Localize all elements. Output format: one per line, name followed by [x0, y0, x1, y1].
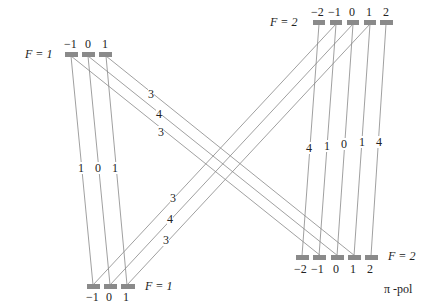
strength-label: 4	[167, 213, 173, 225]
br-sublevel: 1	[350, 263, 356, 275]
bottom-right-level-label: F = 2	[388, 250, 415, 262]
strength-label: 3	[148, 88, 154, 100]
tl-sublevel: 1	[102, 38, 108, 50]
strength-label: 1	[78, 162, 84, 174]
br-sublevel: −2	[294, 263, 307, 275]
top-right-level-label: F = 2	[270, 16, 297, 28]
strength-label: 3	[170, 192, 176, 204]
bottom-left-level-label: F = 1	[145, 280, 172, 292]
tr-sublevel: 2	[383, 6, 389, 18]
tl-sublevel: −1	[64, 38, 77, 50]
polarization-label: π -pol	[384, 283, 412, 295]
strength-label: 3	[158, 126, 164, 138]
br-sublevel: −1	[311, 263, 324, 275]
tr-sublevel: 0	[349, 6, 355, 18]
strength-label: 1	[359, 136, 365, 148]
bl-sublevel: 1	[123, 291, 129, 303]
strength-label: 4	[156, 108, 162, 120]
strength-label: 4	[376, 136, 382, 148]
tr-sublevel: −2	[311, 6, 324, 18]
strength-label: 3	[163, 234, 169, 246]
strength-label: 1	[324, 140, 330, 152]
bl-sublevel: −1	[86, 291, 99, 303]
top-left-level-label: F = 1	[25, 48, 52, 60]
strength-label: 1	[112, 162, 118, 174]
tl-sublevel: 0	[85, 38, 91, 50]
br-sublevel: 0	[333, 263, 339, 275]
tr-sublevel: −1	[328, 6, 341, 18]
br-sublevel: 2	[367, 263, 373, 275]
strength-label: 0	[95, 162, 101, 174]
strength-label: 4	[306, 142, 312, 154]
bl-sublevel: 0	[106, 291, 112, 303]
tr-sublevel: 1	[366, 6, 372, 18]
strength-label: 0	[341, 138, 347, 150]
